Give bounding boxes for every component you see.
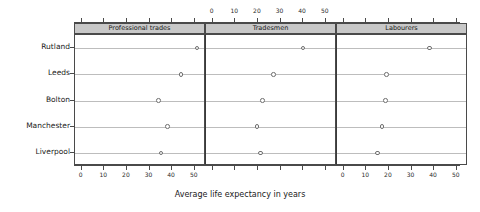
bottom-axis-tick bbox=[212, 166, 213, 170]
bottom-axis-tick bbox=[280, 166, 281, 170]
row-gridline bbox=[75, 153, 204, 154]
data-point bbox=[260, 98, 265, 103]
top-axis-tick bbox=[388, 18, 389, 22]
bottom-axis-tick bbox=[343, 166, 344, 170]
top-axis-tick bbox=[302, 18, 303, 22]
bottom-axis-tick bbox=[411, 166, 412, 170]
bottom-axis-line bbox=[74, 165, 460, 166]
top-axis-tick bbox=[149, 18, 150, 22]
bottom-axis-tick bbox=[302, 166, 303, 170]
panel-strip-label: Tradesmen bbox=[253, 25, 289, 32]
bottom-axis-tick bbox=[81, 166, 82, 170]
bottom-axis-tick-label: 50 bbox=[190, 171, 198, 178]
row-gridline bbox=[75, 127, 204, 128]
data-point bbox=[380, 124, 385, 129]
data-point bbox=[156, 98, 161, 103]
top-axis-tick bbox=[171, 18, 172, 22]
top-axis-tick-label: 20 bbox=[253, 7, 261, 14]
panel-professional-trades bbox=[74, 34, 205, 165]
row-gridline bbox=[206, 127, 335, 128]
bottom-axis-tick bbox=[171, 166, 172, 170]
top-axis-tick bbox=[194, 18, 195, 22]
top-axis-tick bbox=[103, 18, 104, 22]
y-axis-tick bbox=[70, 47, 74, 48]
data-point bbox=[375, 151, 380, 156]
bottom-axis-tick-label: 30 bbox=[407, 171, 415, 178]
bottom-axis-tick-label: 20 bbox=[122, 171, 130, 178]
top-axis-tick bbox=[456, 18, 457, 22]
data-point bbox=[301, 46, 306, 51]
data-point bbox=[179, 72, 184, 77]
y-axis-tick bbox=[70, 126, 74, 127]
top-axis-tick-label: 0 bbox=[210, 7, 214, 14]
top-axis-tick bbox=[126, 18, 127, 22]
data-point bbox=[195, 46, 200, 51]
bottom-axis-tick bbox=[365, 166, 366, 170]
data-point bbox=[427, 46, 432, 51]
panel-strip-professional-trades: Professional trades bbox=[74, 23, 205, 34]
data-point bbox=[255, 124, 260, 129]
top-axis-tick-label: 30 bbox=[276, 7, 284, 14]
top-axis-tick bbox=[280, 18, 281, 22]
bottom-axis-tick-label: 30 bbox=[145, 171, 153, 178]
top-axis-tick bbox=[343, 18, 344, 22]
y-axis-tick bbox=[70, 73, 74, 74]
bottom-axis-tick bbox=[257, 166, 258, 170]
y-axis-label-rutland: Rutland bbox=[41, 43, 70, 51]
bottom-axis-tick-label: 20 bbox=[384, 171, 392, 178]
bottom-axis-tick-label: 0 bbox=[341, 171, 345, 178]
data-point bbox=[165, 124, 170, 129]
bottom-axis-tick-label: 50 bbox=[452, 171, 460, 178]
panel-tradesmen bbox=[205, 34, 336, 165]
row-gridline bbox=[337, 153, 466, 154]
bottom-axis-tick bbox=[433, 166, 434, 170]
bottom-axis-tick bbox=[194, 166, 195, 170]
row-gridline bbox=[206, 48, 335, 49]
top-axis-tick bbox=[433, 18, 434, 22]
bottom-axis-tick-label: 0 bbox=[79, 171, 83, 178]
row-gridline bbox=[337, 74, 466, 75]
bottom-axis-tick bbox=[456, 166, 457, 170]
top-axis-tick-label: 50 bbox=[321, 7, 329, 14]
row-gridline bbox=[337, 101, 466, 102]
y-axis-tick bbox=[70, 152, 74, 153]
y-axis-tick bbox=[70, 100, 74, 101]
top-axis-tick bbox=[212, 18, 213, 22]
row-gridline bbox=[75, 101, 204, 102]
row-gridline bbox=[337, 48, 466, 49]
x-axis-title: Average life expectancy in years bbox=[0, 190, 480, 200]
y-axis-label-manchester: Manchester bbox=[26, 122, 70, 130]
panel-strip-tradesmen: Tradesmen bbox=[205, 23, 336, 34]
top-axis-tick bbox=[411, 18, 412, 22]
data-point bbox=[258, 151, 263, 156]
bottom-axis-tick bbox=[325, 166, 326, 170]
top-axis-tick bbox=[234, 18, 235, 22]
y-axis-label-liverpool: Liverpool bbox=[36, 148, 70, 156]
panel-strip-label: Professional trades bbox=[109, 25, 171, 32]
data-point bbox=[271, 72, 276, 77]
bottom-axis-tick bbox=[149, 166, 150, 170]
bottom-axis-tick bbox=[103, 166, 104, 170]
top-axis-tick bbox=[325, 18, 326, 22]
row-gridline bbox=[75, 74, 204, 75]
bottom-axis-tick bbox=[234, 166, 235, 170]
data-point bbox=[383, 98, 388, 103]
bottom-axis-tick-label: 40 bbox=[429, 171, 437, 178]
dot-plot-figure: 01020304050 Professional tradesTradesmen… bbox=[0, 0, 480, 212]
top-axis-tick bbox=[365, 18, 366, 22]
row-gridline bbox=[75, 48, 204, 49]
bottom-axis-tick bbox=[388, 166, 389, 170]
row-gridline bbox=[206, 101, 335, 102]
top-axis-tick-label: 10 bbox=[231, 7, 239, 14]
data-point bbox=[384, 72, 389, 77]
bottom-axis-tick-label: 10 bbox=[362, 171, 370, 178]
panel-labourers bbox=[336, 34, 467, 165]
bottom-axis-tick-label: 40 bbox=[167, 171, 175, 178]
y-axis-label-leeds: Leeds bbox=[48, 69, 70, 77]
top-axis-tick bbox=[81, 18, 82, 22]
panel-strip-labourers: Labourers bbox=[336, 23, 467, 34]
data-point bbox=[159, 151, 164, 156]
top-axis-tick-label: 40 bbox=[298, 7, 306, 14]
y-axis-label-bolton: Bolton bbox=[46, 96, 70, 104]
row-gridline bbox=[337, 127, 466, 128]
